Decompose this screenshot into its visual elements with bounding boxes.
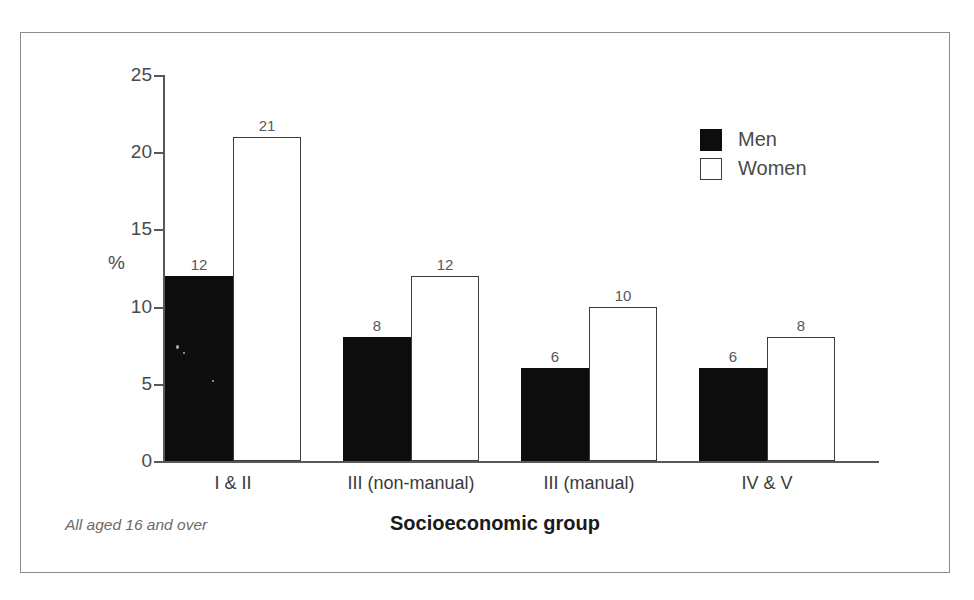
x-axis-title: Socioeconomic group: [390, 512, 600, 535]
legend-item-men[interactable]: Men: [700, 125, 807, 154]
scan-artifact-speck: [183, 352, 185, 354]
bar-value-label: 8: [767, 317, 835, 334]
chart-plot-area: % 0510152025 122181261068 I & IIIII (non…: [0, 0, 974, 600]
bar-women-group-3: [589, 307, 657, 461]
bar-women-group-2: [411, 276, 479, 461]
y-tick-mark: [154, 229, 163, 231]
legend-item-women[interactable]: Women: [700, 154, 807, 183]
bar-value-label: 10: [589, 287, 657, 304]
bar-value-label: 21: [233, 117, 301, 134]
y-tick-label: 25: [112, 64, 152, 86]
chart-legend: Men Women: [700, 125, 807, 183]
bar-value-label: 12: [165, 256, 233, 273]
bar-men-group-4: [699, 368, 767, 461]
legend-label-women: Women: [738, 157, 807, 180]
bar-women-group-4: [767, 337, 835, 461]
scan-artifact-speck: [212, 380, 214, 382]
bar-men-group-2: [343, 337, 411, 461]
y-tick-label: 15: [112, 218, 152, 240]
y-tick-mark: [154, 461, 163, 463]
category-label-4: IV & V: [659, 473, 875, 494]
bar-men-group-3: [521, 368, 589, 461]
bar-men-group-1: [165, 276, 233, 461]
y-tick-mark: [154, 307, 163, 309]
y-tick-label: 20: [112, 141, 152, 163]
y-tick-label: 5: [112, 373, 152, 395]
y-tick-mark: [154, 384, 163, 386]
bar-women-group-1: [233, 137, 301, 461]
y-tick-mark: [154, 152, 163, 154]
legend-swatch-women-icon: [700, 158, 722, 180]
y-tick-label: 0: [112, 450, 152, 472]
bar-value-label: 6: [521, 348, 589, 365]
y-tick-label: 10: [112, 296, 152, 318]
bar-value-label: 6: [699, 348, 767, 365]
x-axis-line: [163, 461, 879, 463]
y-axis-unit-label: %: [108, 252, 125, 274]
legend-label-men: Men: [738, 128, 777, 151]
bar-value-label: 12: [411, 256, 479, 273]
legend-swatch-men-icon: [700, 129, 722, 151]
y-tick-mark: [154, 75, 163, 77]
scan-artifact-speck: [176, 345, 179, 349]
bar-value-label: 8: [343, 317, 411, 334]
chart-footnote: All aged 16 and over: [65, 516, 207, 534]
